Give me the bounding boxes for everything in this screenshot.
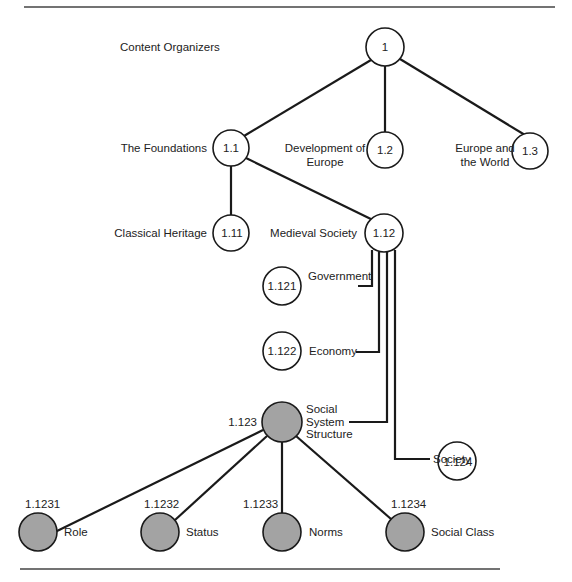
node-label: Role	[64, 526, 88, 538]
diagram-title: Content Organizers	[120, 41, 220, 53]
node-id: 1.1	[223, 142, 239, 154]
node-label: Economy	[309, 345, 357, 357]
node-id: 1.1234	[391, 498, 427, 510]
node-1-123: 1.123 Social System Structure	[228, 402, 352, 442]
node-1-2: 1.2 Development of Europe	[285, 132, 403, 168]
node-id: 1.11	[221, 227, 243, 239]
node-label: Structure	[306, 428, 353, 440]
node-label: System	[306, 416, 344, 428]
node-1-124: 1.124 Society	[433, 442, 476, 480]
node-id: 1.1233	[243, 498, 278, 510]
node-id: 1.122	[268, 345, 297, 357]
node-label: Government	[308, 270, 372, 282]
node-1: 1	[366, 28, 404, 66]
node-id: 1.123	[228, 416, 257, 428]
node-label: The Foundations	[121, 142, 208, 154]
node-id: 1.1232	[144, 498, 179, 510]
node-1-1234: 1.1234 Social Class	[386, 498, 495, 551]
node-1-1232: 1.1232 Status	[141, 498, 219, 551]
node-label: Europe	[306, 156, 343, 168]
node-label: Development of	[285, 142, 366, 154]
node-1-12: 1.12 Medieval Society	[270, 214, 403, 252]
node-id: 1.3	[522, 145, 538, 157]
node-id: 1.2	[377, 144, 393, 156]
node-label: Social	[306, 403, 337, 415]
node-1-122: 1.122 Economy	[263, 332, 357, 370]
node-label: the World	[460, 156, 509, 168]
node-id: 1.121	[268, 280, 297, 292]
node-1-3: 1.3 Europe and the World	[455, 133, 548, 169]
node-label: Social Class	[431, 526, 495, 538]
node-label: Europe and	[455, 142, 514, 154]
node-1-1231: 1.1231 Role	[19, 498, 88, 551]
node-1-1233: 1.1233 Norms	[243, 498, 343, 551]
node-label: Society	[433, 453, 471, 465]
node-id: 1.12	[373, 227, 395, 239]
node-label: Status	[186, 526, 219, 538]
node-label: Classical Heritage	[114, 227, 207, 239]
node-1-11: 1.11 Classical Heritage	[114, 215, 249, 251]
node-1-1: 1.1 The Foundations	[121, 130, 249, 166]
node-label: Norms	[309, 526, 343, 538]
node-1-121: 1.121 Government	[263, 267, 372, 305]
content-organizer-tree: Content Organizers 1 1.1 The Foundations…	[0, 0, 572, 582]
node-label: Medieval Society	[270, 227, 357, 239]
node-id: 1.1231	[25, 498, 60, 510]
node-id: 1	[382, 41, 388, 53]
